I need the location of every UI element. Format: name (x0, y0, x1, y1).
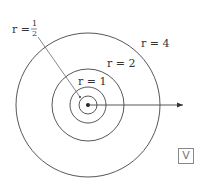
label-r-half-var: r = (12, 23, 30, 36)
label-r2: r = 2 (107, 57, 135, 70)
leader-dot (79, 96, 81, 98)
r-half-leader-line (38, 37, 80, 97)
label-r-half-num: 1 (32, 19, 37, 28)
concentric-circles-diagram: r = 1 2 r = 1 r = 2 r = 4 (0, 0, 201, 186)
label-r-half-den: 2 (32, 29, 37, 38)
label-r4: r = 4 (141, 37, 169, 50)
label-r1: r = 1 (78, 75, 106, 88)
figure-badge: V (178, 148, 194, 164)
